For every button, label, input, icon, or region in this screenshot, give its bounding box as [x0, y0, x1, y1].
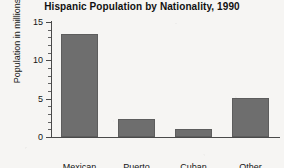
x-axis-tick-label: Other — [222, 162, 279, 168]
bar — [232, 98, 269, 137]
x-axis-tick-label-line: Cuban — [165, 162, 222, 168]
y-axis-tick-label: 10 — [33, 55, 43, 65]
y-axis-title: Population in millions — [12, 0, 22, 100]
y-axis-major-tick — [46, 137, 51, 138]
bar — [175, 129, 212, 137]
x-axis-tick-label: PuertoRican — [108, 162, 165, 168]
plot-area: MexicanPuertoRicanCubanOther — [51, 22, 279, 137]
y-axis-tick-label: 0 — [38, 132, 43, 142]
chart-title: Hispanic Population by Nationality, 1990 — [0, 1, 284, 12]
x-axis-line — [51, 137, 280, 138]
bar — [118, 119, 155, 137]
y-axis-tick-label: 5 — [38, 94, 43, 104]
chart-figure: Hispanic Population by Nationality, 1990… — [0, 0, 284, 168]
x-axis-tick-label: Cuban — [165, 162, 222, 168]
x-axis-tick-label-line: Puerto — [108, 162, 165, 168]
x-axis-tick-label-line: Other — [222, 162, 279, 168]
y-axis-tick-label: 15 — [33, 17, 43, 27]
x-axis-tick-label-line: Mexican — [51, 162, 108, 168]
x-axis-tick-label: Mexican — [51, 162, 108, 168]
bar — [61, 34, 98, 138]
